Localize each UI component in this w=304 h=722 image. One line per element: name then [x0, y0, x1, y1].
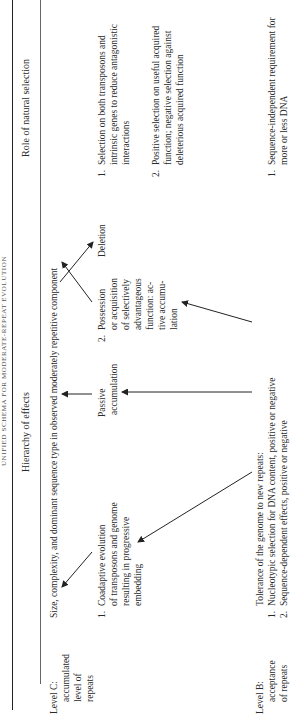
arrow-summary-to-deletion: [60, 242, 93, 282]
arrow-possession-to-summary: [62, 262, 92, 302]
flow-arrows: [0, 0, 304, 722]
arrow-levelb-to-coadaptive: [138, 472, 252, 542]
rotated-table-page: UNIFIED SCHEMA FOR MODERATE-REPEAT EVOLU…: [0, 0, 304, 722]
arrow-levelb-to-possession: [182, 302, 252, 322]
arrow-coadaptive-to-summary: [62, 552, 92, 587]
